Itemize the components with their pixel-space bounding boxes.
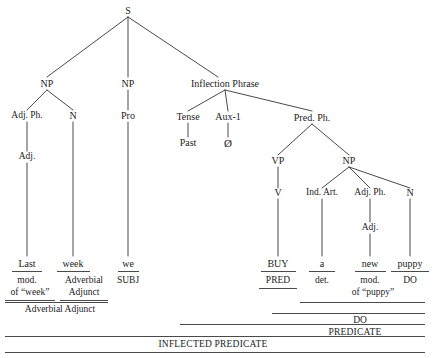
node-adj-right: Adj.	[362, 223, 379, 233]
underline-we	[118, 271, 139, 272]
underline-week	[57, 271, 90, 272]
underline-last	[12, 271, 42, 272]
bracket-label-inflected-predicate: INFLECTED PREDICATE	[158, 340, 267, 350]
bracket-line-inflected-predicate	[5, 336, 425, 337]
node-np-subject: NP	[122, 79, 135, 89]
word-we: we	[122, 259, 134, 269]
underline-buy	[261, 271, 296, 272]
underline-mod-of-week	[5, 300, 55, 301]
node-past: Past	[180, 138, 197, 148]
node-s: S	[125, 6, 131, 16]
bracket-line-direct-object	[272, 313, 425, 314]
label-adverbial-adjunct-line1: Adverbial	[65, 276, 103, 286]
label-det: det.	[315, 276, 329, 286]
word-new: new	[362, 259, 379, 269]
node-aux1: Aux-1	[215, 112, 241, 122]
underline-puppy	[391, 271, 429, 272]
underline-pred	[259, 288, 297, 289]
node-aux1-null: Ø	[224, 138, 232, 149]
bracket-line-of-puppy	[300, 302, 425, 303]
node-np-adverbial: NP	[41, 79, 54, 89]
bracket-label-adverbial-adjunct: Adverbial Adjunct	[25, 305, 95, 315]
word-last: Last	[18, 259, 35, 269]
word-week: week	[62, 259, 83, 269]
label-do-noun: DO	[403, 276, 417, 286]
label-mod-of-puppy-line1: mod.	[360, 276, 379, 286]
label-mod-of-week-line2: of “week”	[11, 288, 50, 298]
node-vp: VP	[272, 156, 285, 166]
node-np-object: NP	[343, 156, 356, 166]
node-ind-art: Ind. Art.	[306, 188, 338, 198]
bracket-line-predicate	[180, 324, 425, 325]
bracket-line-adverbial-adjunct	[5, 302, 108, 303]
word-buy: BUY	[267, 259, 288, 269]
node-v: V	[274, 188, 281, 198]
node-n-left: N	[69, 111, 76, 121]
bracket-line-bottom-rule	[5, 352, 425, 353]
syntax-tree-diagram: S NP Adj. Ph. Adj. N NP Pro Inflection P…	[0, 0, 433, 358]
label-mod-of-puppy-line2: of “puppy”	[352, 288, 394, 298]
label-mod-of-week-line1: mod.	[17, 276, 36, 286]
underline-adverbial-adjunct-inner	[60, 300, 108, 301]
label-adverbial-adjunct-line2: Adjunct	[69, 288, 100, 298]
node-tense: Tense	[176, 112, 199, 122]
node-adj-ph-left: Adj. Ph.	[11, 111, 42, 121]
underline-new	[355, 271, 386, 272]
underline-a	[309, 271, 335, 272]
node-pred-ph: Pred. Ph.	[294, 113, 330, 123]
node-pro: Pro	[121, 111, 135, 121]
label-subj: SUBJ	[117, 276, 139, 286]
label-pred: PRED	[266, 276, 290, 286]
node-adj-left: Adj.	[19, 152, 36, 162]
word-a: a	[320, 259, 324, 269]
word-puppy: puppy	[398, 259, 423, 269]
node-adj-ph-right: Adj. Ph.	[354, 188, 385, 198]
node-inflection-phrase: Inflection Phrase	[191, 79, 259, 89]
node-n-right: N	[406, 188, 413, 198]
